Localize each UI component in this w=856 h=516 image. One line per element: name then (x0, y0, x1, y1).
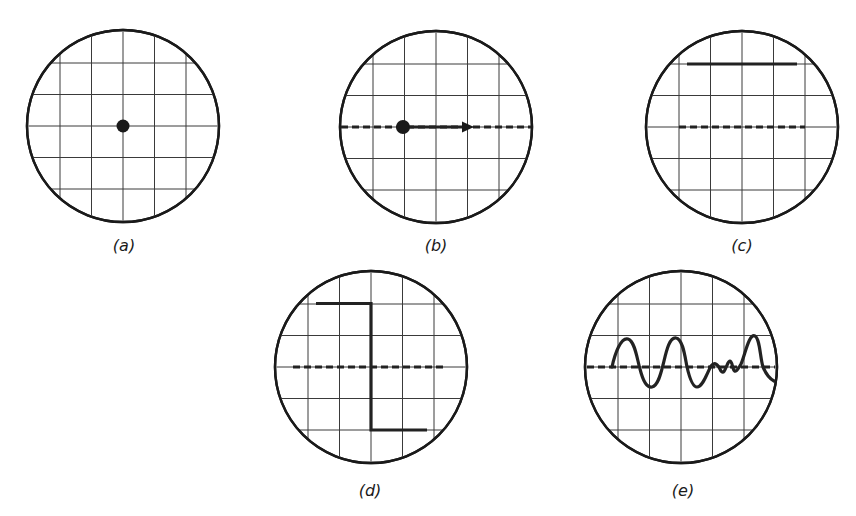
panel-label-c: (c) (722, 236, 762, 255)
scope-panel-a (27, 30, 219, 222)
panel-label-e: (e) (663, 481, 703, 500)
graticule-grid (646, 31, 838, 223)
panel-label-a: (a) (104, 236, 144, 255)
panel-label-d: (d) (350, 481, 390, 500)
scope-panel-c (646, 31, 838, 223)
scope-panel-b (340, 31, 532, 223)
spot-dot (396, 120, 410, 134)
panel-label-b: (b) (416, 236, 456, 255)
spot-dot (117, 120, 130, 133)
oscilloscope-figure (0, 0, 856, 516)
scope-panel-d (275, 271, 467, 463)
scope-panel-e (585, 271, 777, 463)
